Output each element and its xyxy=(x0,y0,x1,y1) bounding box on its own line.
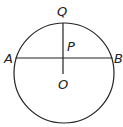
label-o: O xyxy=(58,77,68,92)
circle xyxy=(14,23,114,123)
label-b: B xyxy=(114,51,123,66)
label-q: Q xyxy=(57,4,67,19)
label-p: P xyxy=(67,39,75,54)
label-a: A xyxy=(3,51,13,66)
circle-diagram: Q P A B O xyxy=(0,0,123,127)
